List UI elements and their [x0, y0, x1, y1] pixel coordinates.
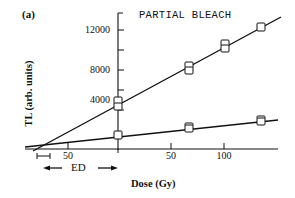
x-axis-label: Dose (Gy)	[131, 178, 176, 189]
marker	[114, 131, 122, 139]
upper-fit-line	[33, 17, 281, 151]
marker	[257, 23, 265, 31]
chart-annotation: PARTIAL BLEACH	[139, 9, 231, 21]
marker	[257, 118, 265, 125]
x-tick-label-50: 50	[156, 150, 186, 161]
y-tick-label-12000: 12000	[70, 24, 110, 35]
intercept-range-bar	[37, 153, 50, 159]
y-tick-label-8000: 8000	[70, 64, 110, 75]
marker	[185, 125, 193, 132]
marker	[221, 45, 229, 52]
panel-label: (a)	[22, 8, 35, 20]
marker	[114, 103, 122, 110]
ed-label: ED	[71, 161, 86, 173]
lower-fit-line	[25, 120, 278, 147]
chart-canvas	[0, 0, 295, 198]
x-tick-label-neg50: 50	[53, 150, 83, 161]
x-tick-label-100: 100	[209, 150, 239, 161]
upper-series-markers	[114, 23, 265, 110]
y-tick-label-4000: 4000	[70, 94, 110, 105]
y-axis-label: TL (arb. units)	[23, 54, 34, 134]
marker	[185, 67, 193, 74]
